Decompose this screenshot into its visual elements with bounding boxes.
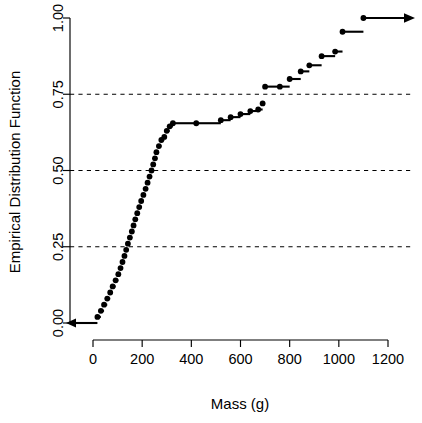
data-point <box>228 114 234 120</box>
data-point <box>152 155 158 161</box>
x-axis-label: Mass (g) <box>211 395 269 412</box>
x-axis-ticks: 020040060080010001200 <box>89 340 404 367</box>
data-point <box>262 84 268 90</box>
data-point <box>161 134 167 140</box>
data-point <box>150 162 156 168</box>
data-point <box>118 265 124 271</box>
data-point <box>170 120 176 126</box>
data-point <box>147 174 153 180</box>
data-point <box>101 302 107 308</box>
x-tick-label: 200 <box>130 351 154 367</box>
data-point <box>298 68 304 74</box>
x-tick-label: 800 <box>278 351 302 367</box>
x-tick-label: 1000 <box>323 351 355 367</box>
data-point <box>136 204 142 210</box>
data-point <box>98 308 104 314</box>
data-point <box>156 143 162 149</box>
data-point <box>143 186 149 192</box>
y-tick-label: 1.00 <box>50 4 66 32</box>
data-point <box>218 117 224 123</box>
right-tail-arrowhead <box>404 13 415 23</box>
data-point <box>277 84 283 90</box>
x-tick-label: 400 <box>179 351 203 367</box>
data-point <box>193 120 199 126</box>
y-tick-label: 0.75 <box>50 80 66 108</box>
data-point <box>123 247 129 253</box>
data-point <box>340 29 346 35</box>
data-point <box>110 284 116 290</box>
data-point <box>122 253 128 259</box>
y-axis: 0.000.250.500.751.00 <box>50 4 70 337</box>
data-point <box>134 210 140 216</box>
data-point <box>149 168 155 174</box>
y-axis-label: Empirical Distribution Function <box>6 71 23 274</box>
data-point <box>238 111 244 117</box>
data-point <box>132 216 138 222</box>
data-point <box>260 101 266 107</box>
data-point <box>154 149 160 155</box>
y-tick-label: 0.50 <box>50 156 66 184</box>
data-point <box>129 229 135 235</box>
left-tail-arrowhead <box>66 318 76 327</box>
data-point <box>306 62 312 68</box>
data-point <box>319 53 325 59</box>
y-axis-ticks: 0.000.250.500.751.00 <box>50 4 70 337</box>
y-tick-label: 0.25 <box>50 233 66 261</box>
data-point <box>287 76 293 82</box>
data-point <box>120 259 126 265</box>
x-tick-label: 600 <box>228 351 252 367</box>
data-point <box>138 198 144 204</box>
data-point <box>127 235 133 241</box>
data-point <box>113 277 119 283</box>
chart-canvas: 0.000.250.500.751.00 0200400600800100012… <box>0 0 422 423</box>
ecdf-chart: 0.000.250.500.751.00 0200400600800100012… <box>0 0 422 423</box>
data-point <box>255 107 261 113</box>
data-point <box>125 241 131 247</box>
grid-lines <box>70 94 414 247</box>
data-point <box>107 290 113 296</box>
data-point <box>104 296 110 302</box>
data-point <box>140 192 146 198</box>
data-point <box>115 271 121 277</box>
data-point <box>145 180 151 186</box>
data-point <box>95 314 101 320</box>
x-tick-label: 0 <box>89 351 97 367</box>
data-point <box>131 223 137 229</box>
x-axis: 020040060080010001200 <box>89 340 404 367</box>
data-point <box>247 108 253 114</box>
x-tick-label: 1200 <box>372 351 404 367</box>
y-tick-label: 0.00 <box>50 309 66 337</box>
data-point <box>332 49 338 55</box>
